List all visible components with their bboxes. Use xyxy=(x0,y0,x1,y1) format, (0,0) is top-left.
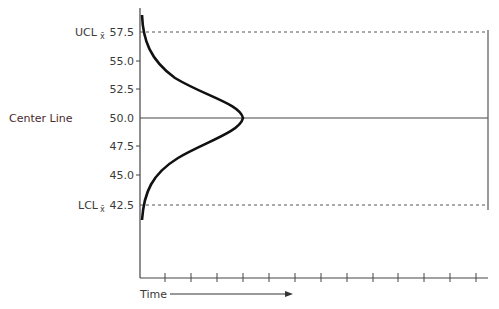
time-label: Time xyxy=(139,288,167,301)
lcl-subscript: x̄ xyxy=(100,205,105,214)
time-arrow-icon xyxy=(285,291,293,297)
ucl-subscript: x̄ xyxy=(100,32,105,41)
control-chart: 57.5 55.0 52.5 50.0 47.5 45.0 42.5 UCL x… xyxy=(0,0,499,309)
y-tick-label: 45.0 xyxy=(110,169,135,182)
y-tick-label: 52.5 xyxy=(110,83,135,96)
ucl-label: UCL xyxy=(75,26,98,39)
center-line-label: Center Line xyxy=(9,112,73,125)
lcl-label: LCL xyxy=(78,199,99,212)
y-tick-label: 42.5 xyxy=(110,199,135,212)
y-tick-label: 47.5 xyxy=(110,140,135,153)
y-tick-label: 57.5 xyxy=(110,26,135,39)
y-tick-label: 55.0 xyxy=(110,55,135,68)
y-tick-label: 50.0 xyxy=(110,112,135,125)
